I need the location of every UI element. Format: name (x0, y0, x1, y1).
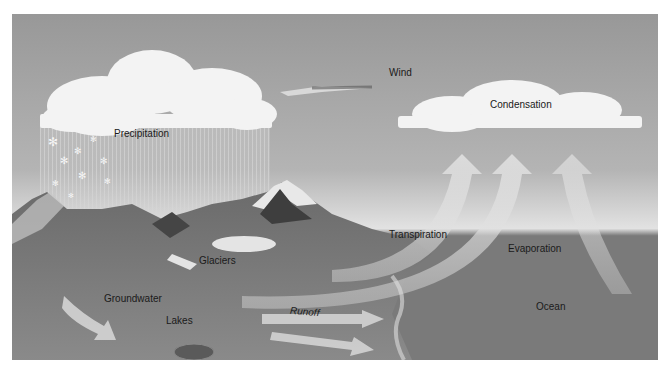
svg-text:✻: ✻ (104, 177, 111, 186)
glacier (212, 236, 276, 252)
label-precipitation: Precipitation (114, 129, 169, 139)
label-ocean: Ocean (536, 302, 565, 312)
svg-text:✻: ✻ (78, 170, 86, 181)
lake (174, 344, 214, 360)
svg-text:✻: ✻ (74, 146, 82, 156)
label-lakes: Lakes (166, 316, 193, 326)
svg-text:✻: ✻ (52, 179, 59, 188)
svg-text:✻: ✻ (60, 155, 68, 166)
label-groundwater: Groundwater (104, 294, 162, 304)
svg-text:✻: ✻ (68, 192, 74, 199)
svg-text:✻: ✻ (48, 135, 58, 149)
label-evaporation: Evaporation (508, 244, 561, 254)
svg-text:✻: ✻ (90, 135, 97, 144)
label-glaciers: Glaciers (199, 256, 236, 266)
label-wind: Wind (389, 68, 412, 78)
label-transpiration: Transpiration (389, 230, 447, 240)
water-cycle-diagram: ✻ ✻ ✻ ✻ ✻ ✻ ✻ ✻ ✻ (12, 14, 658, 360)
svg-text:✻: ✻ (100, 156, 108, 166)
label-condensation: Condensation (490, 100, 552, 110)
